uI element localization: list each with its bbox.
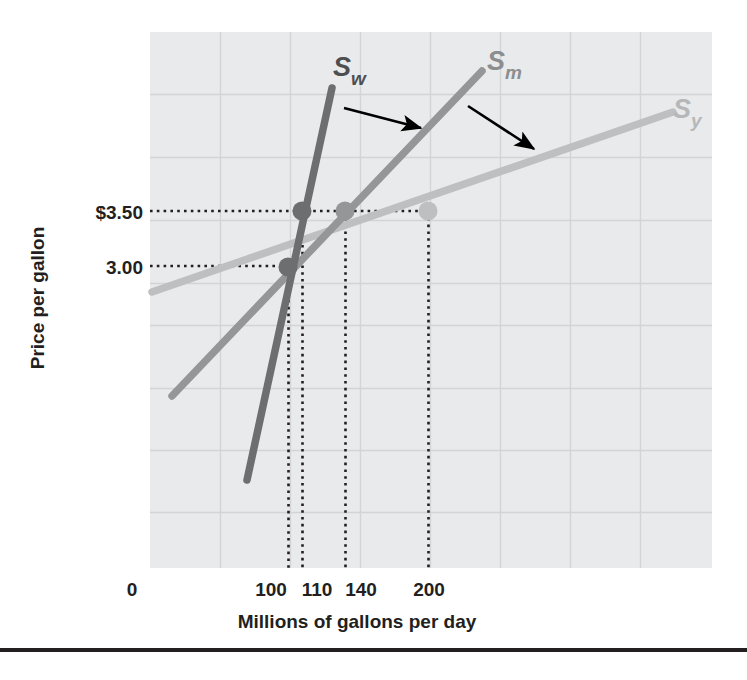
marker-sw-new-point — [293, 202, 312, 221]
curve-label-sm-subscript: m — [505, 62, 522, 83]
curve-label-sw-subscript: w — [351, 68, 367, 89]
xtick-label-origin: 0 — [127, 579, 138, 600]
footer-divider — [0, 648, 747, 652]
marker-sm-new-point — [336, 202, 355, 221]
xtick-label-200: 200 — [413, 579, 445, 600]
xtick-label-100: 100 — [255, 579, 287, 600]
curve-label-sw-base: S — [333, 52, 351, 82]
curve-label-sy-base: S — [673, 94, 691, 124]
xtick-label-140: 140 — [345, 579, 377, 600]
curve-label-sy-subscript: y — [690, 110, 703, 131]
ytick-label-300: 3.00 — [106, 257, 143, 278]
x-axis-title: Millions of gallons per day — [238, 611, 477, 632]
marker-equilibrium-initial — [279, 258, 298, 277]
y-axis-title: Price per gallon — [27, 227, 48, 370]
marker-sy-new-point — [419, 202, 438, 221]
chart-canvas: S w S m S y $3.50 3.00 0 100 110 140 200… — [0, 0, 747, 680]
xtick-label-110: 110 — [302, 579, 333, 600]
supply-elasticity-figure: S w S m S y $3.50 3.00 0 100 110 140 200… — [0, 0, 747, 680]
ytick-label-350: $3.50 — [95, 202, 143, 223]
curve-label-sm-base: S — [487, 46, 505, 76]
